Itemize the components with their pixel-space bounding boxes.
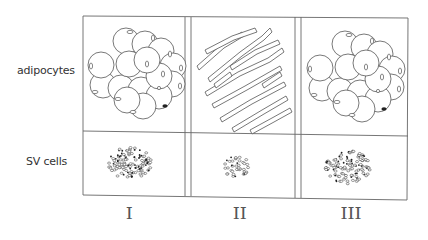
sv-cells-1 xyxy=(108,147,153,178)
sv-cells-3 xyxy=(324,150,371,185)
adipocyte-cluster-3 xyxy=(307,31,405,122)
sv-cells-2 xyxy=(224,156,250,177)
adipocyte-elongated-2 xyxy=(197,28,292,134)
diagram-canvas xyxy=(0,0,428,240)
adipocyte-cluster-1 xyxy=(88,28,186,119)
